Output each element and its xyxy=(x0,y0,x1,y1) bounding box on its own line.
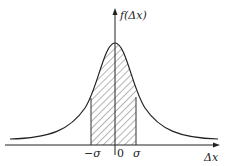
shaded-region xyxy=(10,43,218,145)
distribution-diagram: f(Δx) Δx −σ 0 σ xyxy=(0,0,232,166)
y-axis-arrow-icon xyxy=(113,8,118,15)
x-axis-arrow-icon xyxy=(213,143,220,148)
zero-label: 0 xyxy=(117,147,124,160)
y-axis-label: f(Δx) xyxy=(119,9,147,22)
neg-sigma-label: −σ xyxy=(84,147,101,160)
sigma-label: σ xyxy=(133,147,141,160)
x-axis-label: Δx xyxy=(203,151,219,164)
